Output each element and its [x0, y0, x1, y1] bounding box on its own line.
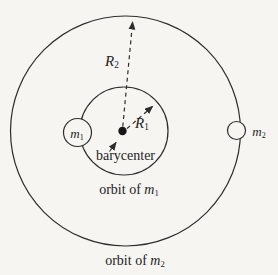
m2-label: m2	[252, 125, 265, 138]
orbit-m1-caption-text: orbit of	[99, 182, 144, 197]
m1-label: m1	[70, 127, 83, 140]
r2-radius-arrow	[123, 22, 133, 127]
two-body-orbit-diagram: R2 R1 m1 m2 barycenter orbit of m1 orbit…	[0, 0, 278, 275]
orbit-m2-caption-subscript: 2	[160, 259, 164, 269]
orbit-diagram-canvas	[0, 0, 278, 275]
m2-subscript: 2	[262, 131, 266, 140]
r2-symbol: R	[105, 53, 114, 69]
orbit-m1-caption-symbol: m	[144, 182, 154, 197]
orbit-m1-caption-subscript: 1	[154, 188, 158, 198]
r1-symbol: R	[135, 115, 144, 131]
barycenter-dot	[118, 127, 126, 135]
m2-symbol: m	[252, 124, 261, 139]
m1-symbol: m	[70, 126, 79, 141]
m1-subscript: 1	[80, 133, 84, 142]
r1-label: R1	[135, 116, 149, 131]
orbit-m2-caption: orbit of m2	[105, 254, 165, 268]
r2-label: R2	[105, 54, 119, 69]
r1-subscript: 1	[144, 122, 149, 132]
r2-subscript: 2	[114, 60, 119, 70]
body-m2-circle	[228, 122, 246, 140]
orbit-m2-caption-symbol: m	[150, 253, 160, 268]
barycenter-label: barycenter	[96, 149, 155, 163]
orbit-m2-caption-text: orbit of	[105, 253, 150, 268]
orbit-m1-caption: orbit of m1	[99, 183, 159, 197]
